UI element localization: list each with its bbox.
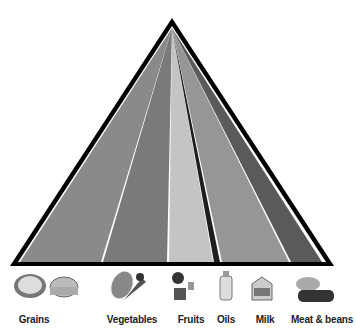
label-milk: Milk <box>256 314 275 325</box>
label-fruits: Fruits <box>178 314 205 325</box>
milk-icon <box>252 277 272 300</box>
vegetables-icon <box>107 268 146 302</box>
grains-icon <box>14 274 78 298</box>
label-vegetables: Vegetables <box>107 314 157 325</box>
food-pyramid <box>0 0 356 333</box>
meat-beans-icon <box>296 277 334 302</box>
label-grains: Grains <box>19 314 49 325</box>
oils-icon <box>220 271 232 300</box>
label-oils: Oils <box>217 314 235 325</box>
label-meat-beans: Meat & beans <box>291 314 353 325</box>
fruits-icon <box>172 272 194 300</box>
